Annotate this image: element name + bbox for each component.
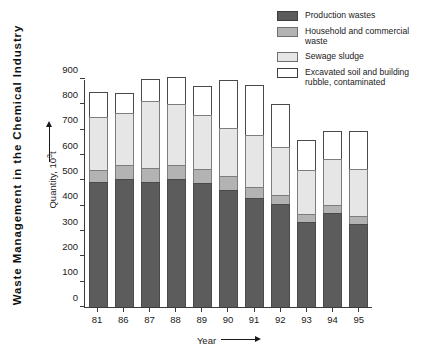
legend-item[interactable]: Production wastes bbox=[277, 10, 433, 21]
chart-legend: Production wastesHousehold and commercia… bbox=[277, 10, 433, 92]
y-axis-tick-label: 400 bbox=[62, 190, 78, 201]
stacked-bar[interactable] bbox=[89, 92, 108, 307]
stacked-bar[interactable] bbox=[219, 80, 238, 307]
bar-segment[interactable] bbox=[297, 214, 316, 222]
bar-segment[interactable] bbox=[193, 169, 212, 183]
stacked-bar[interactable] bbox=[193, 86, 212, 307]
x-axis-tick-label: 81 bbox=[88, 314, 107, 328]
page-title: Waste Management in the Chemical Industr… bbox=[11, 25, 23, 306]
stacked-bar[interactable] bbox=[297, 140, 316, 307]
stacked-bar[interactable] bbox=[349, 131, 368, 307]
bar-segment[interactable] bbox=[115, 165, 134, 179]
bar-segment[interactable] bbox=[323, 213, 342, 307]
legend-item[interactable]: Sewage sludge bbox=[277, 51, 433, 62]
bar-segment[interactable] bbox=[141, 168, 160, 182]
bar-segment[interactable] bbox=[167, 104, 186, 165]
y-axis-tick-label: 100 bbox=[62, 266, 78, 277]
x-axis-tick-label: 87 bbox=[140, 314, 159, 328]
bar-segment[interactable] bbox=[245, 85, 264, 136]
plot-area: 0100200300400500600700800900 bbox=[84, 80, 372, 308]
bar-segment[interactable] bbox=[245, 198, 264, 307]
y-axis-title: Quantity, 103t bbox=[46, 151, 58, 208]
bar-group bbox=[85, 80, 372, 307]
bar-segment[interactable] bbox=[349, 224, 368, 307]
bar-segment[interactable] bbox=[167, 77, 186, 104]
bar-segment[interactable] bbox=[167, 179, 186, 307]
y-axis-tick-label: 200 bbox=[62, 240, 78, 251]
stacked-bar[interactable] bbox=[323, 131, 342, 307]
bar-segment[interactable] bbox=[141, 101, 160, 168]
white-swatch bbox=[277, 68, 298, 78]
bar-segment[interactable] bbox=[245, 135, 264, 186]
x-axis-tick-labels: 8186878889909192939495 bbox=[84, 314, 372, 328]
y-axis-tick-label: 500 bbox=[62, 164, 78, 175]
bar-segment[interactable] bbox=[193, 115, 212, 169]
bar-segment[interactable] bbox=[271, 147, 290, 195]
legend-item-label: Production wastes bbox=[305, 10, 375, 21]
x-axis-tick-label: 95 bbox=[349, 314, 368, 328]
legend-item-label: Sewage sludge bbox=[305, 51, 364, 62]
bar-segment[interactable] bbox=[349, 131, 368, 170]
bar-segment[interactable] bbox=[89, 170, 108, 182]
bar-segment[interactable] bbox=[219, 190, 238, 307]
legend-item[interactable]: Household and commercial waste bbox=[277, 26, 433, 47]
stacked-bar[interactable] bbox=[115, 93, 134, 307]
bar-segment[interactable] bbox=[297, 222, 316, 307]
x-axis-tick-label: 89 bbox=[192, 314, 211, 328]
bar-segment[interactable] bbox=[141, 182, 160, 307]
bar-segment[interactable] bbox=[219, 176, 238, 190]
bar-segment[interactable] bbox=[193, 86, 212, 115]
light-grey-swatch bbox=[277, 52, 298, 62]
x-axis-tick-label: 93 bbox=[297, 314, 316, 328]
medium-grey-swatch bbox=[277, 27, 298, 37]
legend-item[interactable]: Excavated soil and building rubble, cont… bbox=[277, 67, 433, 88]
x-axis-arrow-icon bbox=[221, 339, 259, 340]
stacked-bar[interactable] bbox=[245, 85, 264, 307]
bar-segment[interactable] bbox=[219, 80, 238, 129]
bar-segment[interactable] bbox=[89, 182, 108, 307]
bar-segment[interactable] bbox=[89, 117, 108, 170]
bar-segment[interactable] bbox=[323, 131, 342, 159]
bar-segment[interactable] bbox=[271, 204, 290, 307]
x-axis-tick-label: 92 bbox=[271, 314, 290, 328]
legend-item-label: Excavated soil and building rubble, cont… bbox=[305, 67, 433, 88]
stacked-bar[interactable] bbox=[167, 77, 186, 307]
stacked-bar[interactable] bbox=[271, 104, 290, 307]
bar-segment[interactable] bbox=[271, 104, 290, 147]
bar-segment[interactable] bbox=[89, 92, 108, 117]
bar-segment[interactable] bbox=[245, 187, 264, 198]
legend-item-label: Household and commercial waste bbox=[305, 26, 433, 47]
y-axis-unit-base: Quantity, 10 bbox=[47, 158, 58, 209]
dark-grey-swatch bbox=[277, 11, 298, 21]
bar-segment[interactable] bbox=[115, 179, 134, 307]
x-axis-tick-label: 90 bbox=[218, 314, 237, 328]
bar-segment[interactable] bbox=[349, 216, 368, 224]
y-axis-tick-label: 700 bbox=[62, 114, 78, 125]
y-axis-unit-tail: t bbox=[47, 151, 58, 154]
y-axis-tick-label: 300 bbox=[62, 215, 78, 226]
bar-segment[interactable] bbox=[193, 183, 212, 307]
bar-segment[interactable] bbox=[323, 159, 342, 205]
x-axis-tick-label: 91 bbox=[245, 314, 264, 328]
x-axis-tick-label: 88 bbox=[166, 314, 185, 328]
chart-title-container: Waste Management in the Chemical Industr… bbox=[0, 0, 34, 330]
bar-segment[interactable] bbox=[297, 140, 316, 170]
bar-segment[interactable] bbox=[167, 165, 186, 179]
bar-segment[interactable] bbox=[271, 195, 290, 204]
bar-segment[interactable] bbox=[115, 93, 134, 113]
bar-segment[interactable] bbox=[115, 113, 134, 165]
y-axis-tick-label: 0 bbox=[73, 291, 78, 302]
bar-segment[interactable] bbox=[323, 205, 342, 213]
y-axis-unit-exponent: 3 bbox=[46, 154, 53, 158]
x-axis-title-container: Year bbox=[84, 331, 372, 349]
bar-segment[interactable] bbox=[219, 128, 238, 176]
y-axis-tick-label: 900 bbox=[62, 63, 78, 74]
stacked-bar[interactable] bbox=[141, 79, 160, 307]
chart-figure: Waste Management in the Chemical Industr… bbox=[0, 0, 433, 355]
x-axis-tick-label: 94 bbox=[323, 314, 342, 328]
bar-segment[interactable] bbox=[297, 170, 316, 214]
bar-segment[interactable] bbox=[141, 79, 160, 101]
y-axis-title-container: Quantity, 103t bbox=[42, 120, 62, 240]
bar-segment[interactable] bbox=[349, 169, 368, 215]
x-axis-tick-label: 86 bbox=[114, 314, 133, 328]
